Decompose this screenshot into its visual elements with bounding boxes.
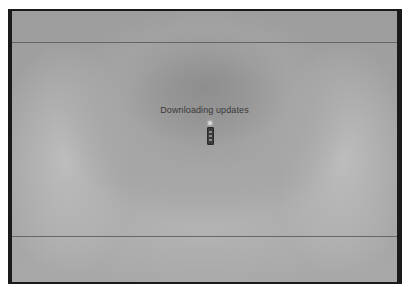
spinner-tick bbox=[209, 139, 212, 141]
status-text: Downloading updates bbox=[12, 105, 397, 115]
top-divider bbox=[12, 42, 397, 43]
update-screen: Downloading updates bbox=[12, 11, 397, 282]
spinner-tick bbox=[209, 135, 212, 137]
spinner-tick bbox=[209, 131, 212, 133]
loading-spinner-icon bbox=[207, 127, 214, 145]
monitor-bezel: Downloading updates bbox=[8, 9, 402, 284]
progress-dot-icon bbox=[208, 121, 212, 125]
bottom-divider bbox=[12, 236, 397, 237]
